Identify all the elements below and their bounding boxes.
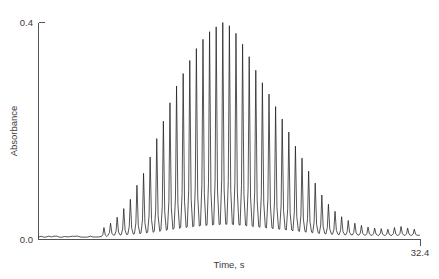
chart-background [0, 0, 439, 279]
x-axis-right-tick-label: 32.4 [411, 247, 430, 258]
absorbance-chart-svg: 0.4 0.0 32.4 Time, s Absorbance [0, 0, 439, 279]
chart-container: 0.4 0.0 32.4 Time, s Absorbance [0, 0, 439, 279]
y-axis-top-tick-label: 0.4 [20, 17, 33, 28]
y-axis-bottom-tick-label: 0.0 [20, 234, 33, 245]
y-axis-title: Absorbance [8, 106, 19, 157]
x-axis-title: Time, s [214, 259, 245, 270]
